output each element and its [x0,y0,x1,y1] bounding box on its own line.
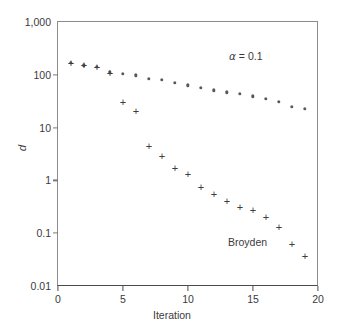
data-point-marker [251,95,254,98]
data-point-marker [209,189,219,199]
y-axis-tick-label: 100 [33,69,51,81]
data-point-marker [118,97,128,107]
data-point-marker [264,97,267,100]
alpha-symbol: α [229,50,236,62]
x-axis-tick-mark [57,286,58,291]
y-axis-tick-label: 0.1 [36,227,51,239]
data-point-marker [170,163,180,173]
data-point-marker [66,58,76,68]
data-point-marker [131,106,141,116]
data-point-marker [121,72,124,75]
y-axis-tick-label: 10 [39,122,51,134]
plot-data-area [58,22,318,286]
y-axis-title: d [16,145,28,151]
data-point-marker [157,151,167,161]
data-point-marker [82,63,85,66]
data-point-marker [160,78,163,81]
alpha-value-text: = 0.1 [236,50,263,62]
figure-log-convergence-plot: 1,0001001010.10.01 05101520 d Iteration … [0,0,344,329]
data-point-marker [235,202,245,212]
data-point-marker [222,196,232,206]
data-point-marker [183,169,193,179]
data-point-marker [261,212,271,222]
x-axis-tick-label: 5 [120,293,126,305]
x-axis-title: Iteration [0,309,344,321]
data-point-marker [186,84,189,87]
data-point-marker [248,205,258,215]
x-axis-tick-label: 15 [247,293,259,305]
data-point-marker [274,222,284,232]
y-axis-tick-label: 1,000 [25,16,51,28]
y-axis-tick-labels: 1,0001001010.10.01 [0,0,51,329]
data-point-marker [95,65,98,68]
annotation-alpha-value: α = 0.1 [229,50,263,62]
y-axis-tick-label: 0.01 [31,280,51,292]
data-point-marker [92,62,102,72]
x-axis-tick-label: 0 [55,293,61,305]
data-point-marker [287,239,297,249]
data-point-marker [290,105,293,108]
data-point-marker [144,141,154,151]
data-point-marker [196,182,206,192]
y-axis-tick-label: 1 [45,174,51,186]
x-axis-tick-mark [252,286,253,291]
x-axis-tick-mark [122,286,123,291]
data-point-marker [212,89,215,92]
x-axis-tick-label: 20 [312,293,324,305]
data-point-marker [105,68,115,78]
x-axis-tick-label: 10 [182,293,194,305]
data-point-marker [199,86,202,89]
data-point-marker [79,60,89,70]
data-point-marker [238,92,241,95]
data-point-marker [173,81,176,84]
x-axis-tick-mark [187,286,188,291]
data-point-marker [300,251,310,261]
data-point-marker [303,107,306,110]
data-point-marker [277,100,280,103]
data-point-marker [134,74,137,77]
data-point-marker [225,90,228,93]
data-point-marker [147,77,150,80]
annotation-broyden-series-label: Broyden [228,236,267,248]
x-axis-tick-mark [317,286,318,291]
data-point-marker [108,70,111,73]
data-point-marker [69,61,72,64]
